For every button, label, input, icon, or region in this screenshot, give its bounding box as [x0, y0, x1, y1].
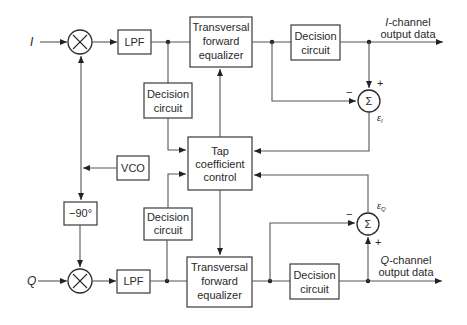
decision-left-bottom-block: Decision circuit — [144, 208, 192, 240]
svg-text:circuit: circuit — [154, 224, 183, 236]
decision-q-out-block: Decision circuit — [290, 264, 339, 299]
svg-text:Decision: Decision — [147, 88, 189, 100]
svg-text:Transversal: Transversal — [191, 261, 248, 273]
tfe-q-block: Transversal forward equalizer — [187, 257, 252, 307]
svg-text:LPF: LPF — [124, 36, 144, 48]
tap-coefficient-control-block: Tap coefficient control — [188, 137, 252, 190]
svg-text:Σ: Σ — [366, 95, 373, 107]
i-input-label: I — [30, 35, 34, 49]
q-input-label: Q — [27, 274, 36, 288]
svg-text:Σ: Σ — [365, 218, 372, 230]
svg-text:forward: forward — [201, 275, 238, 287]
decision-bottom-to-tap-line — [168, 174, 186, 208]
i-channel-output-label: I-channel — [385, 16, 430, 28]
svg-text:control: control — [203, 171, 236, 183]
lpf-q-block: LPF — [117, 270, 150, 293]
svg-text:Tap: Tap — [211, 145, 229, 157]
lpf-i-block: LPF — [118, 30, 151, 54]
svg-text:Decision: Decision — [293, 269, 335, 281]
eps-q-label: εQ — [377, 201, 386, 212]
svg-text:Decision: Decision — [294, 30, 336, 42]
i-output-data-label: output data — [380, 28, 436, 40]
svg-text:equalizer: equalizer — [199, 49, 244, 61]
sum-q-minus-sign: − — [346, 208, 352, 220]
eps-i-to-tap-line — [254, 112, 369, 151]
sum-q-plus-sign: + — [375, 236, 381, 248]
svg-text:circuit: circuit — [301, 44, 330, 56]
svg-text:Transversal: Transversal — [192, 21, 249, 33]
q-output-data-label: output data — [378, 266, 434, 278]
mixer-i — [68, 30, 92, 54]
svg-text:forward: forward — [203, 35, 240, 47]
q-channel-output-label: Q-channel — [381, 254, 432, 266]
decision-left-top-block: Decision circuit — [144, 83, 192, 118]
svg-text:circuit: circuit — [300, 283, 329, 295]
block-diagram: I LPF Transversal forward equalizer Deci… — [0, 0, 467, 325]
sum-i-node: Σ — [358, 90, 380, 112]
sum-q-node: Σ — [357, 213, 379, 235]
svg-text:coefficient: coefficient — [195, 158, 244, 170]
svg-text:equalizer: equalizer — [197, 289, 242, 301]
svg-text:circuit: circuit — [154, 102, 183, 114]
svg-text:LPF: LPF — [123, 275, 143, 287]
decision-top-to-tap-line — [168, 118, 186, 150]
svg-text:Decision: Decision — [147, 211, 189, 223]
tfe-i-block: Transversal forward equalizer — [190, 17, 252, 67]
mixer-q — [68, 269, 92, 293]
decision-i-out-block: Decision circuit — [291, 25, 340, 60]
sum-i-plus-sign: + — [377, 77, 383, 89]
vco-block: VCO — [117, 156, 149, 180]
sum-i-minus-sign: − — [346, 86, 352, 98]
eps-i-label: εI — [377, 113, 383, 124]
svg-text:−90°: −90° — [69, 207, 92, 219]
phase-shift-block: −90° — [64, 202, 97, 225]
svg-text:VCO: VCO — [121, 162, 145, 174]
